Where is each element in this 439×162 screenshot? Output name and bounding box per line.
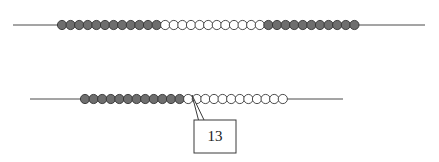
bead-top-27-dark	[281, 20, 290, 29]
bead-bottom-17-light	[218, 94, 227, 103]
bead-bottom-13-light	[184, 94, 193, 103]
bead-top-34-dark	[341, 20, 350, 29]
bead-top-17-light	[195, 20, 204, 29]
bead-top-15-light	[178, 20, 187, 29]
figure-canvas: 13	[0, 0, 439, 162]
bead-bottom-4-dark	[106, 94, 115, 103]
bead-bottom-3-dark	[98, 94, 107, 103]
bead-top-7-dark	[109, 20, 118, 29]
bead-top-24-light	[255, 20, 264, 29]
bead-top-23-light	[247, 20, 256, 29]
bead-top-18-light	[204, 20, 213, 29]
bead-bottom-2-dark	[89, 94, 98, 103]
bead-bottom-21-light	[252, 94, 261, 103]
bead-bottom-18-light	[227, 94, 236, 103]
bead-bottom-15-light	[201, 94, 210, 103]
bead-bottom-23-light	[270, 94, 279, 103]
bead-bottom-12-dark	[175, 94, 184, 103]
bead-bottom-10-dark	[158, 94, 167, 103]
bead-top-30-dark	[307, 20, 316, 29]
bead-top-5-dark	[92, 20, 101, 29]
bottom-row-bead-group	[80, 94, 287, 103]
bead-top-1-dark	[57, 20, 66, 29]
top-row-bead-group	[57, 20, 359, 29]
bead-bottom-19-light	[235, 94, 244, 103]
bead-top-20-light	[221, 20, 230, 29]
bead-bottom-7-dark	[132, 94, 141, 103]
bead-top-28-dark	[290, 20, 299, 29]
bead-bottom-8-dark	[141, 94, 150, 103]
bead-bottom-5-dark	[115, 94, 124, 103]
bead-bottom-24-light	[278, 94, 287, 103]
bead-top-21-light	[229, 20, 238, 29]
bead-top-10-dark	[135, 20, 144, 29]
bead-top-14-light	[169, 20, 178, 29]
bead-top-19-light	[212, 20, 221, 29]
bead-top-33-dark	[333, 20, 342, 29]
bead-top-4-dark	[83, 20, 92, 29]
bead-top-3-dark	[75, 20, 84, 29]
bead-top-12-dark	[152, 20, 161, 29]
bead-top-2-dark	[66, 20, 75, 29]
bead-bottom-1-dark	[80, 94, 89, 103]
bead-top-8-dark	[118, 20, 127, 29]
bead-diagram-svg: 13	[0, 0, 439, 162]
bead-top-11-dark	[143, 20, 152, 29]
bead-bottom-20-light	[244, 94, 253, 103]
bead-top-35-dark	[350, 20, 359, 29]
bead-top-29-dark	[298, 20, 307, 29]
bead-top-32-dark	[324, 20, 333, 29]
bead-bottom-9-dark	[149, 94, 158, 103]
bead-top-9-dark	[126, 20, 135, 29]
bead-bottom-16-light	[209, 94, 218, 103]
bead-top-6-dark	[100, 20, 109, 29]
bead-top-26-dark	[272, 20, 281, 29]
bead-bottom-11-dark	[166, 94, 175, 103]
bead-top-22-light	[238, 20, 247, 29]
callout-label-13: 13	[208, 128, 223, 144]
bead-top-31-dark	[315, 20, 324, 29]
bead-top-25-dark	[264, 20, 273, 29]
bead-bottom-22-light	[261, 94, 270, 103]
bead-top-16-light	[186, 20, 195, 29]
bead-bottom-6-dark	[123, 94, 132, 103]
bead-top-13-light	[161, 20, 170, 29]
